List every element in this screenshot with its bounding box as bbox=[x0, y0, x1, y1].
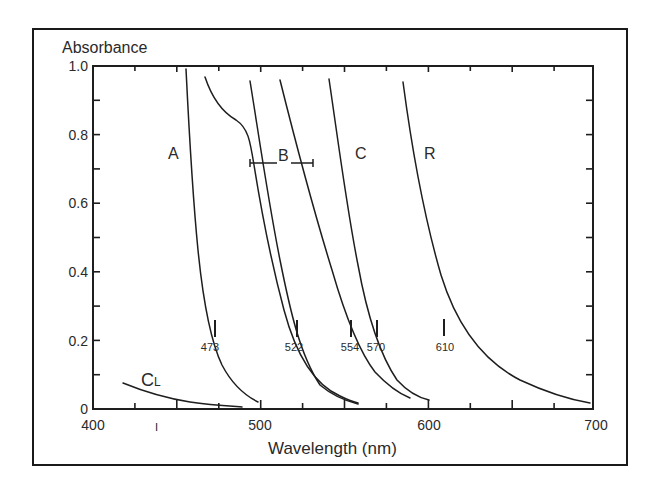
stray-mark: I bbox=[155, 422, 158, 433]
curve-label-CL-sub: L bbox=[154, 375, 161, 389]
y-axis-label: Absorbance bbox=[62, 40, 147, 56]
y-tick-0.8: 0.8 bbox=[48, 128, 88, 142]
x-tick-500: 500 bbox=[240, 418, 280, 432]
wavelength-markers bbox=[215, 319, 444, 337]
x-tick-700: 700 bbox=[576, 418, 616, 432]
marker-570: 570 bbox=[361, 342, 391, 353]
chart-plot bbox=[0, 0, 654, 487]
curve-label-B: B bbox=[278, 148, 289, 164]
y-tick-0.6: 0.6 bbox=[48, 196, 88, 210]
curve-R bbox=[403, 82, 590, 403]
marker-522: 522 bbox=[279, 342, 309, 353]
y-tick-0: 0 bbox=[48, 402, 88, 416]
x-axis-label: Wavelength (nm) bbox=[268, 440, 397, 457]
curve-B-main bbox=[250, 81, 358, 404]
x-tick-400: 400 bbox=[73, 418, 113, 432]
curve-label-CL: CL bbox=[141, 371, 161, 389]
curve-label-R: R bbox=[424, 146, 436, 162]
curve-label-A: A bbox=[168, 146, 179, 162]
y-tick-0.4: 0.4 bbox=[48, 265, 88, 279]
curve-label-CL-main: C bbox=[141, 370, 154, 390]
y-tick-0.2: 0.2 bbox=[48, 334, 88, 348]
y-tick-1.0: 1.0 bbox=[48, 59, 88, 73]
plot-area-frame bbox=[93, 66, 593, 409]
marker-473: 473 bbox=[195, 342, 225, 353]
x-tick-600: 600 bbox=[409, 418, 449, 432]
marker-610: 610 bbox=[430, 342, 460, 353]
curve-label-C: C bbox=[355, 146, 367, 162]
axis-ticks bbox=[93, 66, 593, 409]
